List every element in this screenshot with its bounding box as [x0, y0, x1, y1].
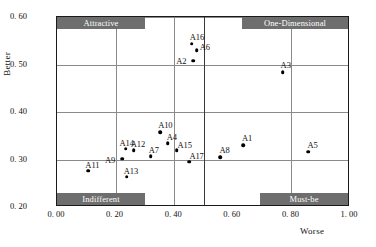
x-axis-title: Worse: [300, 226, 324, 236]
gridline-vertical: [116, 17, 117, 205]
data-point-label: A1: [242, 134, 252, 143]
y-tick-label: 0. 40: [10, 106, 27, 116]
y-tick-label: 0. 30: [10, 154, 27, 164]
data-point-label: A10: [158, 121, 172, 130]
data-point-label: A6: [200, 43, 210, 52]
quadrant-label-must-be: Must-be: [260, 193, 348, 205]
data-point-label: A8: [219, 146, 229, 155]
data-point-label: A16: [190, 33, 204, 42]
data-point-label: A7: [149, 146, 159, 155]
data-point: [158, 131, 162, 135]
data-point: [191, 59, 195, 63]
quadrant-label-indifferent: Indifferent: [57, 193, 145, 205]
data-point-label: A3: [281, 61, 291, 70]
quadrant-label-attractive: Attractive: [57, 17, 145, 29]
x-tick-label: 0. 60: [223, 209, 240, 219]
gridline-vertical: [174, 17, 175, 205]
data-point-label: A9: [105, 156, 115, 165]
data-point-label: A14: [120, 139, 134, 148]
data-point-label: A4: [167, 133, 177, 142]
y-tick-label: 0. 50: [10, 59, 27, 69]
x-tick-label: 0. 40: [165, 209, 182, 219]
data-point-label: A15: [178, 141, 192, 150]
data-point: [190, 42, 194, 46]
x-tick-label: 0. 20: [106, 209, 123, 219]
data-point: [195, 48, 199, 52]
x-tick-label: 1. 00: [341, 209, 358, 219]
quadrant-label-one-dimensional: One-Dimensional: [242, 17, 348, 29]
x-tick-label: 0. 80: [282, 209, 299, 219]
data-point-label: A17: [189, 152, 203, 161]
data-point-label: A13: [124, 167, 138, 176]
x-tick-label: 0. 00: [48, 209, 65, 219]
kano-scatter-chart: Better Worse 0. 200. 300. 400. 500. 60 0…: [0, 0, 376, 247]
data-point: [132, 149, 136, 153]
gridline-vertical: [291, 17, 292, 205]
data-point: [120, 157, 124, 161]
plot-area: A1A2A3A4A5A6A7A8A9A10A11A12A13A14A15A16A…: [56, 16, 349, 206]
data-point: [219, 155, 223, 159]
data-point-label: A5: [307, 141, 317, 150]
gridline-horizontal: [57, 65, 348, 66]
data-point: [281, 70, 285, 74]
data-point: [307, 150, 311, 154]
y-tick-label: 0. 20: [10, 201, 27, 211]
data-point: [166, 142, 170, 146]
data-point: [241, 143, 245, 147]
data-point-label: A11: [85, 161, 99, 170]
gridline-horizontal: [57, 112, 348, 113]
y-tick-label: 0. 60: [10, 11, 27, 21]
data-point-label: A2: [176, 57, 186, 66]
